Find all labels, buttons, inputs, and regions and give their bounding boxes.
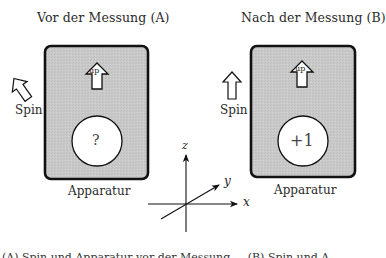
coordinate-axes [148,155,237,232]
y-axis [161,185,219,219]
spin-arrow-icon-b [223,72,241,99]
figure-caption: (A) Spin und Apparatur vor der Messung .… [2,251,340,258]
z-axis-label: z [182,139,188,152]
up-label-a: up [89,66,99,75]
y-axis-label: y [224,174,231,188]
apparatus-label-a: Apparatur [68,184,130,198]
readout-value-a: ? [92,132,100,148]
apparatus-label-b: Apparatur [274,183,336,197]
spin-arrow-icon-a [7,73,36,104]
panel-a-title: Vor der Messung (A) [37,10,170,25]
readout-value-b: +1 [290,131,314,150]
up-label-b: up [295,64,305,73]
x-axis-label: x [243,195,250,209]
spin-label-a: Spin [15,103,42,117]
panel-b-title: Nach der Messung (B) [241,10,386,25]
spin-label-b: Spin [220,103,247,117]
